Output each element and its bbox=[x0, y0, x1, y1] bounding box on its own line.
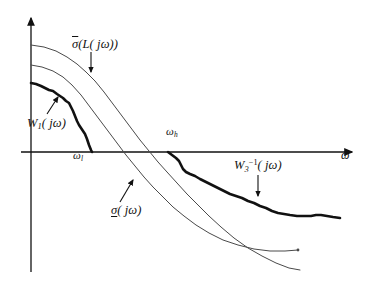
w3-rest: ( jω) bbox=[258, 158, 282, 172]
sigma-underline-rest: ( jω) bbox=[117, 203, 141, 217]
omega-l-base: ω bbox=[73, 149, 81, 161]
axes bbox=[21, 18, 352, 272]
x-axis-label: ω bbox=[341, 149, 350, 161]
label-sigma-bar-L: σ(L( jω)) bbox=[72, 38, 118, 51]
annotation-arrow-collection bbox=[47, 52, 258, 202]
omega-h-subscript: h bbox=[174, 130, 178, 139]
plot-canvas bbox=[0, 0, 370, 288]
w3-superscript: −1 bbox=[249, 158, 258, 167]
omega-h-base: ω bbox=[166, 125, 174, 137]
omega-l-subscript: l bbox=[81, 154, 83, 163]
w3-base: W bbox=[234, 158, 245, 172]
loop-shaping-figure: σ(L( jω)) W1( jω) ωl ωh σ( jω) W3−1( jω)… bbox=[0, 0, 370, 288]
label-sigma-underline: σ( jω) bbox=[111, 204, 142, 217]
tick-label-omega-h: ωh bbox=[166, 126, 178, 139]
label-w3-inverse: W3−1( jω) bbox=[234, 159, 282, 173]
sigma-bar-rest: (L( jω)) bbox=[78, 37, 118, 51]
w1-base: W bbox=[27, 116, 38, 130]
w1-rest: ( jω) bbox=[42, 116, 66, 130]
annotation-arrow-sigma-underline bbox=[120, 180, 133, 202]
label-w1: W1( jω) bbox=[27, 117, 66, 131]
curve-endpoint-dot bbox=[297, 249, 300, 252]
tick-label-omega-l: ωl bbox=[73, 150, 83, 163]
annotation-arrow-W1 bbox=[47, 97, 58, 114]
